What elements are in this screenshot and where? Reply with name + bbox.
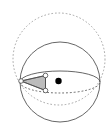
sphere-diagram-canvas bbox=[0, 0, 110, 127]
spherical-triangle bbox=[21, 76, 46, 91]
vertex-marker-bottom bbox=[43, 88, 48, 93]
vertex-marker-top bbox=[43, 73, 48, 78]
interior-point bbox=[55, 78, 61, 84]
sphere-diagram-figure bbox=[0, 0, 110, 127]
vertex-marker-left bbox=[19, 79, 24, 84]
